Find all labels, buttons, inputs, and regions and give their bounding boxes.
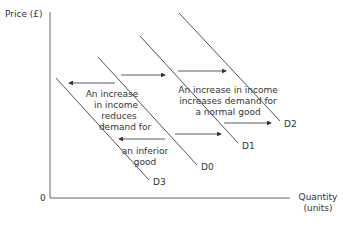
x-axis-label-line1: Quantity (293, 192, 343, 203)
annotation-line: a normal good (168, 107, 288, 118)
annotation-line: An increase in income (168, 85, 288, 96)
annotation-line: An increase (72, 89, 152, 100)
annotation-line: an inferior (120, 146, 170, 157)
y-axis-label: Price (£) (5, 9, 43, 20)
curve-label-d0: D0 (201, 162, 214, 173)
curve-label-d3: D3 (153, 177, 166, 188)
x-axis-label: Quantity (units) (293, 192, 343, 214)
annotation-line: demand for (72, 122, 152, 133)
annotation-inferior-good-top: An increase in income reduces demand for (72, 89, 152, 133)
annotation-line: increases demand for (168, 96, 288, 107)
annotation-line: good (120, 157, 170, 168)
annotation-inferior-good-bottom: an inferior good (120, 146, 170, 168)
x-axis-label-line2: (units) (293, 203, 343, 214)
annotation-normal-good: An increase in income increases demand f… (168, 85, 288, 118)
origin-label: 0 (40, 193, 46, 204)
annotation-line: in income (72, 100, 152, 111)
annotation-line: reduces (72, 111, 152, 122)
curve-label-d2: D2 (284, 119, 297, 130)
curve-label-d1: D1 (242, 141, 255, 152)
